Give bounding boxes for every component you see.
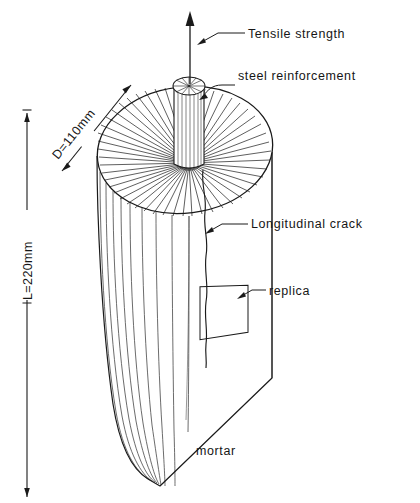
steel-reinforcement-label: steel reinforcement bbox=[238, 69, 356, 83]
length-dimension-label: L=220mm bbox=[21, 241, 35, 300]
mortar-label: mortar bbox=[196, 444, 236, 458]
length-arrow-top bbox=[24, 113, 30, 122]
replica-label: replica bbox=[269, 284, 310, 298]
longitudinal-crack-label: Longitudinal crack bbox=[251, 217, 363, 231]
tensile-force-arrow bbox=[186, 11, 195, 84]
tensile-arrow-head bbox=[186, 11, 195, 26]
rebar-shaft bbox=[174, 88, 204, 168]
callout-tensile-strength: Tensile strength bbox=[197, 27, 345, 45]
diameter-arrow-upper bbox=[122, 85, 131, 94]
tensile-strength-label: Tensile strength bbox=[248, 27, 345, 41]
length-arrow-bottom bbox=[24, 488, 30, 497]
tensile-strength-leader bbox=[200, 33, 245, 43]
length-dimension: L=220mm bbox=[19, 110, 36, 497]
tensile-strength-leader-arrow bbox=[197, 38, 206, 45]
specimen-diagram: L=220mm D=110mm bbox=[0, 0, 420, 503]
steel-reinforcement-bar bbox=[173, 77, 205, 169]
diameter-arrow-lower bbox=[62, 163, 71, 172]
